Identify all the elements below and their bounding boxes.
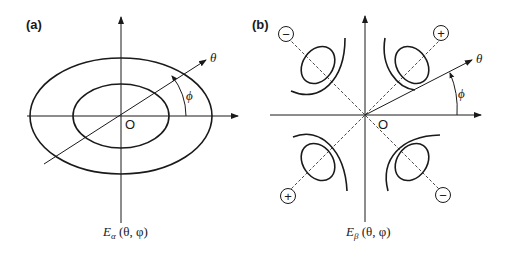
svg-text:−: − [282,27,290,42]
origin-label: O [125,117,135,132]
theta-label: θ [210,50,217,65]
sign-plus-top-right: + [434,26,449,41]
caption-e-alpha: Eα (θ, φ) [102,224,148,241]
panel-b-label: (b) [252,17,269,32]
sign-minus-top-left: − [279,27,294,42]
lobe-inner-ellipse-top-left [294,40,342,90]
panel-a-label: (a) [26,17,42,32]
sign-minus-bottom-right: − [436,188,451,203]
svg-text:+: + [437,26,445,41]
sign-plus-bottom-left: + [281,189,296,204]
phi-angle-arc [450,73,457,115]
panel-b: (b) − + + − [252,16,483,241]
caption-e-beta: Eβ (θ, φ) [345,224,391,241]
phi-label: ϕ [186,88,193,103]
svg-text:−: − [439,188,447,203]
svg-text:+: + [284,189,292,204]
origin-label: O [378,117,388,132]
theta-direction-arrow [365,60,472,115]
phi-label: ϕ [458,86,465,101]
phi-angle-arc [172,76,186,116]
theta-label: θ [476,51,483,66]
panel-a: (a) θ ϕ O Eα (θ, φ) [26,17,238,241]
diagram-canvas: (a) θ ϕ O Eα (θ, φ) (b) [0,0,505,261]
